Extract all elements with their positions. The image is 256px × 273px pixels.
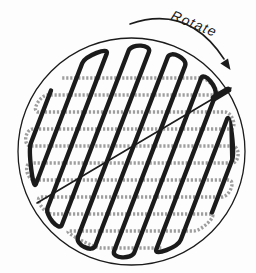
rotate-label: Rotate bbox=[169, 7, 220, 40]
figure-canvas: Rotate bbox=[0, 0, 256, 273]
rotating-disc-scan-figure: Rotate bbox=[0, 0, 256, 273]
rotate-arrowhead-icon bbox=[220, 58, 230, 70]
